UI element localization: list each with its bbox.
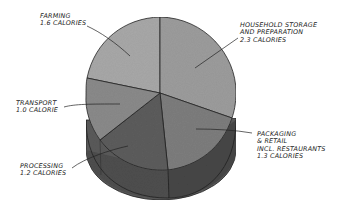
label-transport: TRANSPORT 1.0 CALORIE: [16, 100, 58, 115]
label-processing: PROCESSING 1.2 CALORIES: [20, 163, 66, 178]
label-farming: FARMING 1.6 CALORIES: [40, 13, 86, 28]
label-transport-value: 1.0 CALORIE: [16, 107, 58, 114]
label-household-value: 2.3 CALORIES: [240, 37, 317, 44]
label-packaging-value: 1.3 CALORIES: [257, 153, 326, 160]
label-processing-value: 1.2 CALORIES: [20, 170, 66, 177]
pie-top: [86, 17, 236, 170]
label-packaging: PACKAGING & RETAIL INCL. RESTAURANTS 1.3…: [257, 131, 326, 161]
label-farming-value: 1.6 CALORIES: [40, 20, 86, 27]
label-household: HOUSEHOLD STORAGE AND PREPARATION 2.3 CA…: [240, 22, 317, 44]
